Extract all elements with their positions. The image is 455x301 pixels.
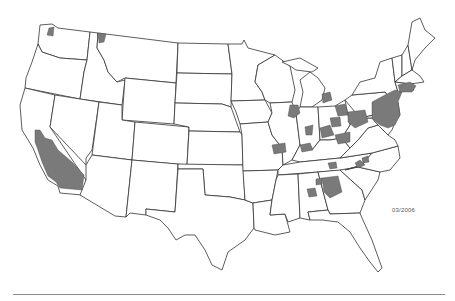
state-colorado — [132, 122, 189, 165]
state-kansas — [187, 131, 243, 165]
date-label: 03/2006 — [392, 207, 415, 213]
state-iowa — [231, 100, 272, 124]
highlight-mi — [322, 92, 332, 103]
highlight-al — [307, 188, 317, 197]
state-wyoming — [122, 78, 176, 124]
state-arizona — [80, 155, 132, 217]
highlight-il-south — [272, 143, 286, 154]
us-map — [0, 0, 455, 301]
state-south-dakota — [175, 73, 232, 107]
highlight-in — [305, 125, 313, 135]
state-outlines — [20, 18, 435, 272]
highlight-al-ga — [316, 178, 322, 185]
highlight-oh-3 — [330, 117, 341, 127]
state-new-mexico — [126, 160, 178, 217]
state-maine — [408, 18, 435, 70]
state-north-dakota — [177, 43, 232, 74]
bottom-divider — [13, 294, 445, 295]
state-florida — [308, 210, 382, 272]
